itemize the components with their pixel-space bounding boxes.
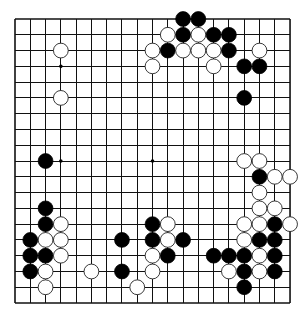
white-stone <box>191 27 206 42</box>
black-stone <box>176 233 191 248</box>
white-stone <box>53 217 68 232</box>
black-stone <box>38 201 53 216</box>
black-stone <box>237 264 252 279</box>
black-stone <box>237 59 252 74</box>
white-stone <box>252 248 267 263</box>
black-stone <box>267 217 282 232</box>
star-point <box>59 65 63 69</box>
white-stone <box>145 59 160 74</box>
white-stone <box>206 59 221 74</box>
white-stone <box>252 201 267 216</box>
black-stone <box>237 91 252 106</box>
white-stone <box>222 264 237 279</box>
white-stone <box>191 43 206 58</box>
black-stone <box>222 248 237 263</box>
black-stone <box>267 233 282 248</box>
black-stone <box>206 248 221 263</box>
black-stone <box>38 248 53 263</box>
black-stone <box>160 248 175 263</box>
stones-layer <box>23 12 298 295</box>
white-stone <box>252 185 267 200</box>
black-stone <box>222 27 237 42</box>
black-stone <box>237 248 252 263</box>
white-stone <box>38 233 53 248</box>
white-stone <box>252 43 267 58</box>
black-stone <box>115 264 130 279</box>
white-stone <box>53 91 68 106</box>
white-stone <box>237 233 252 248</box>
black-stone <box>252 169 267 184</box>
black-stone <box>23 248 38 263</box>
black-stone <box>222 43 237 58</box>
white-stone <box>237 217 252 232</box>
white-stone <box>176 43 191 58</box>
black-stone <box>23 264 38 279</box>
white-stone <box>283 169 298 184</box>
white-stone <box>53 43 68 58</box>
go-board[interactable] <box>0 0 307 315</box>
white-stone <box>38 264 53 279</box>
white-stone <box>267 169 282 184</box>
star-point <box>151 159 155 163</box>
white-stone <box>252 154 267 169</box>
black-stone <box>145 233 160 248</box>
black-stone <box>38 154 53 169</box>
black-stone <box>115 233 130 248</box>
white-stone <box>145 43 160 58</box>
white-stone <box>283 217 298 232</box>
white-stone <box>267 201 282 216</box>
black-stone <box>206 27 221 42</box>
black-stone <box>176 12 191 27</box>
white-stone <box>237 154 252 169</box>
white-stone <box>252 264 267 279</box>
white-stone <box>145 248 160 263</box>
white-stone <box>53 248 68 263</box>
black-stone <box>267 248 282 263</box>
white-stone <box>160 233 175 248</box>
black-stone <box>176 27 191 42</box>
white-stone <box>84 264 99 279</box>
white-stone <box>53 233 68 248</box>
black-stone <box>23 233 38 248</box>
white-stone <box>160 27 175 42</box>
white-stone <box>145 264 160 279</box>
black-stone <box>252 233 267 248</box>
black-stone <box>191 12 206 27</box>
white-stone <box>206 43 221 58</box>
white-stone <box>38 280 53 295</box>
white-stone <box>160 217 175 232</box>
black-stone <box>160 43 175 58</box>
black-stone <box>145 217 160 232</box>
white-stone <box>130 280 145 295</box>
black-stone <box>267 264 282 279</box>
white-stone <box>252 217 267 232</box>
black-stone <box>38 217 53 232</box>
star-point <box>59 159 63 163</box>
black-stone <box>237 280 252 295</box>
black-stone <box>252 59 267 74</box>
